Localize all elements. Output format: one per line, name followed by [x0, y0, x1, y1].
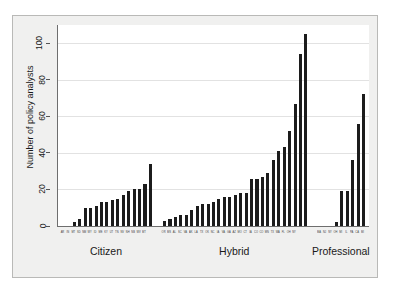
bar — [149, 164, 152, 226]
bar — [133, 189, 136, 226]
bar — [288, 131, 291, 226]
bar — [351, 160, 354, 226]
bar — [143, 184, 146, 226]
bar — [217, 199, 220, 226]
bar — [185, 215, 188, 226]
y-axis-tick-label: 0 — [39, 224, 49, 229]
y-axis-tick-label: 100 — [34, 36, 44, 50]
bar — [304, 34, 307, 226]
bar — [174, 217, 177, 226]
bar — [239, 193, 242, 226]
bar — [234, 195, 237, 226]
plot-panel — [57, 25, 369, 227]
bar — [73, 222, 76, 226]
bar — [201, 204, 204, 226]
x-axis-category-label: NY — [288, 231, 300, 236]
bar — [116, 199, 119, 226]
y-axis-tick-mark — [46, 43, 50, 44]
bar — [122, 195, 125, 226]
bar — [111, 200, 114, 226]
bar — [138, 189, 141, 226]
x-axis-category-label: MI — [357, 231, 369, 236]
bar — [362, 94, 365, 226]
x-axis-group-label: Professional — [281, 245, 395, 257]
x-axis-group-labels: CitizenHybridProfessional — [57, 245, 369, 261]
bar — [84, 208, 87, 226]
bar — [105, 202, 108, 226]
bar — [335, 222, 338, 226]
bar — [228, 197, 231, 226]
bar — [272, 160, 275, 226]
bar — [78, 219, 81, 226]
bar — [245, 193, 248, 226]
bar — [212, 202, 215, 226]
bar — [299, 54, 302, 226]
y-axis-tick-label: 60 — [36, 112, 46, 121]
x-axis-group-label: Citizen — [46, 245, 166, 257]
bar — [127, 191, 130, 226]
bar — [255, 179, 258, 227]
bar — [89, 208, 92, 226]
y-axis-ticks: 020406080100 — [33, 16, 55, 277]
bar — [190, 210, 193, 226]
bar — [95, 206, 98, 226]
bar — [277, 151, 280, 226]
x-axis-group-label: Hybrid — [174, 245, 294, 257]
bar — [100, 202, 103, 226]
chart-figure: Number of policy analysts 020406080100 A… — [12, 15, 378, 278]
bar — [283, 147, 286, 226]
bar — [196, 206, 199, 226]
bar-series — [58, 25, 369, 226]
x-axis-category-label: MT — [138, 231, 150, 236]
y-axis-tick-label: 40 — [36, 148, 46, 157]
bar — [163, 221, 166, 226]
bar — [294, 104, 297, 226]
y-axis-tick-label: 20 — [36, 185, 46, 194]
bar — [346, 191, 349, 226]
bar — [179, 215, 182, 226]
y-axis-tick-label: 80 — [36, 75, 46, 84]
bar — [266, 173, 269, 226]
bar — [261, 177, 264, 226]
bar — [340, 191, 343, 226]
bar — [223, 197, 226, 226]
bar — [168, 219, 171, 226]
bar — [357, 124, 360, 226]
x-axis-category-labels: ARINMTSDNMWYIDMEKYUTTNNVNHNBWVMTORMSALSC… — [57, 227, 369, 235]
bar — [207, 204, 210, 226]
bar — [250, 179, 253, 227]
